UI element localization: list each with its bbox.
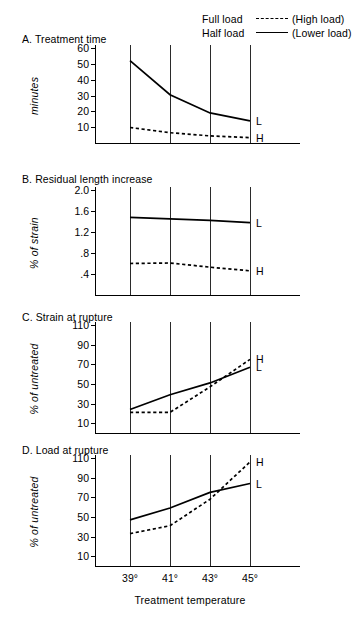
gridline-a-41 — [170, 45, 171, 143]
y-tick — [91, 478, 96, 479]
legend: Full load (High load) Half load (Lower l… — [202, 12, 352, 40]
y-tick — [91, 127, 96, 128]
series-end-label-h: H — [256, 265, 264, 277]
gridline-d-41 — [170, 455, 171, 566]
gridline-c-39 — [130, 322, 131, 433]
series-end-label-h: H — [256, 353, 264, 365]
x-tick-label-41: 41° — [162, 572, 178, 584]
gridline-a-39 — [130, 45, 131, 143]
series-line-dashed — [130, 127, 250, 137]
y-tick — [91, 190, 96, 191]
y-tick — [91, 64, 96, 65]
series-line-dashed — [130, 263, 250, 271]
gridline-b-41 — [170, 187, 171, 295]
y-tick-label: .4 — [53, 268, 89, 280]
series-end-label-h: H — [256, 132, 264, 144]
y-tick-label: 70 — [53, 358, 89, 370]
gridline-b-39 — [130, 187, 131, 295]
y-tick-label: 50 — [53, 58, 89, 70]
series-line-solid — [130, 217, 250, 222]
panel-b-x-axis — [95, 295, 300, 296]
panel-a-x-axis — [95, 143, 300, 144]
series-line-solid — [130, 367, 250, 409]
legend-row-half-load: Half load (Lower load) — [202, 26, 352, 40]
panel-c-y-axis — [95, 322, 96, 433]
panel-c-x-axis — [95, 433, 300, 434]
panel-c-y-axis-label: % of untreated — [28, 343, 40, 414]
panel-b-y-axis-label: % of strain — [28, 217, 40, 269]
legend-paren-lower-load: (Lower load) — [292, 27, 352, 39]
legend-label-half-load: Half load — [202, 27, 254, 39]
y-tick — [91, 384, 96, 385]
y-tick — [91, 458, 96, 459]
gridline-a-43 — [210, 45, 211, 143]
y-tick-label: 20 — [53, 105, 89, 117]
y-tick — [91, 345, 96, 346]
y-tick — [91, 497, 96, 498]
y-tick — [91, 96, 96, 97]
series-end-label-h: H — [256, 456, 264, 468]
panel-title-c: C. Strain at rupture — [22, 311, 113, 323]
gridline-a-45 — [250, 45, 251, 143]
panel-a-y-axis-label: minutes — [28, 76, 40, 114]
y-tick-label: 30 — [53, 531, 89, 543]
legend-row-full-load: Full load (High load) — [202, 12, 352, 26]
y-tick-label: .8 — [53, 247, 89, 259]
series-line-dashed — [130, 359, 250, 412]
y-tick — [91, 80, 96, 81]
series-end-label-l: L — [256, 478, 262, 490]
panel-d-y-axis-label: % of untreated — [28, 476, 40, 547]
legend-swatch-dashed-icon — [256, 15, 288, 23]
legend-label-full-load: Full load — [202, 13, 254, 25]
x-tick-label-43: 43° — [202, 572, 218, 584]
gridline-c-43 — [210, 322, 211, 433]
series-end-label-l: L — [256, 361, 262, 373]
y-tick — [91, 364, 96, 365]
y-tick — [91, 211, 96, 212]
y-tick — [91, 48, 96, 49]
series-line-dashed — [130, 462, 250, 534]
panel-b-y-axis — [95, 187, 96, 295]
y-tick — [91, 111, 96, 112]
gridline-d-45 — [250, 455, 251, 566]
y-tick — [91, 517, 96, 518]
y-tick-label: 50 — [53, 511, 89, 523]
x-axis-title: Treatment temperature — [134, 594, 245, 606]
gridline-d-39 — [130, 455, 131, 566]
y-tick-label: 10 — [53, 121, 89, 133]
y-tick-label: 2.0 — [53, 184, 89, 196]
y-tick — [91, 556, 96, 557]
y-tick-label: 10 — [53, 417, 89, 429]
gridline-b-43 — [210, 187, 211, 295]
x-tick-label-45: 45° — [242, 572, 258, 584]
y-tick-label: 90 — [53, 339, 89, 351]
gridline-d-43 — [210, 455, 211, 566]
panel-d-y-axis — [95, 455, 96, 566]
y-tick — [91, 537, 96, 538]
y-tick-label: 30 — [53, 90, 89, 102]
y-tick-label: 10 — [53, 550, 89, 562]
y-tick-label: 40 — [53, 74, 89, 86]
legend-paren-high-load: (High load) — [292, 13, 344, 25]
series-line-solid — [130, 61, 250, 121]
gridline-c-45 — [250, 322, 251, 433]
y-tick-label: 70 — [53, 491, 89, 503]
series-end-label-l: L — [256, 115, 262, 127]
panel-d-x-axis — [95, 566, 300, 567]
series-end-label-l: L — [256, 217, 262, 229]
y-tick — [91, 404, 96, 405]
y-tick-label: 50 — [53, 378, 89, 390]
gridline-c-41 — [170, 322, 171, 433]
panel-title-a: A. Treatment time — [22, 33, 107, 45]
panel-title-b: B. Residual length increase — [22, 173, 153, 185]
y-tick-label: 30 — [53, 398, 89, 410]
panel-title-d: D. Load at rupture — [22, 444, 108, 456]
series-line-solid — [130, 484, 250, 520]
panel-a-y-axis — [95, 45, 96, 143]
gridline-b-45 — [250, 187, 251, 295]
x-tick-label-39: 39° — [122, 572, 138, 584]
y-tick — [91, 423, 96, 424]
y-tick — [91, 325, 96, 326]
y-tick-label: 1.6 — [53, 205, 89, 217]
y-tick-label: 90 — [53, 472, 89, 484]
